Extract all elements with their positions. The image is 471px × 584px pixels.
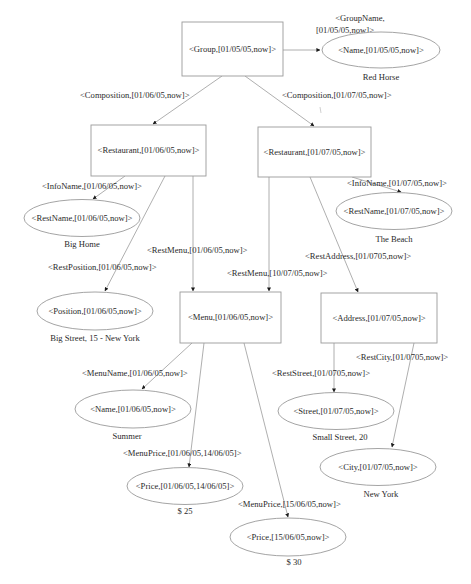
edge-label-composition-2: <Composition,[01/07/05,now]> bbox=[282, 90, 392, 100]
node-menu-name[interactable]: <Name,[01/06/05,now]> Summer bbox=[75, 390, 191, 441]
edge-menuname bbox=[142, 343, 192, 389]
edge-label-infoname-2: <InfoName,[01/07/05,now]> bbox=[347, 178, 447, 188]
node-position[interactable]: <Position,[01/06/05,now]> Big Street, 15… bbox=[37, 292, 153, 343]
edge-label-reststreet: <RestStreet,[01/0705,now]> bbox=[272, 368, 370, 378]
temporal-xml-graph: <GroupName, [01/05/05,now]> <Composition… bbox=[0, 0, 471, 584]
node-label-price-1: <Price,[01/06/05,14/06/05]> bbox=[136, 481, 235, 491]
node-label-restname-1: <RestName,[01/06/05,now]> bbox=[32, 213, 133, 223]
edge-label-infoname-1: <InfoName,[01/06/05,now]> bbox=[42, 181, 142, 191]
node-city[interactable]: <City,[01/07/05,now]> New York bbox=[320, 449, 436, 500]
edge-label-restmenu-1: <RestMenu,[01/06/05,now]> bbox=[147, 245, 248, 255]
stray-mark bbox=[320, 107, 321, 113]
edge-label-restcity: <RestCity,[01/0705,now]> bbox=[356, 352, 448, 362]
node-label-restaurant-1: <Restaurant,[01/06/05,now]> bbox=[98, 145, 200, 155]
node-value-price-2: $ 30 bbox=[286, 557, 301, 567]
node-address[interactable]: <Address,[01/07/05,now]> bbox=[321, 293, 437, 343]
node-value-group-name: Red Horse bbox=[363, 72, 400, 82]
edge-label-menuprice-2: <MenuPrice,[15/06/05,now]> bbox=[238, 499, 341, 509]
node-value-street: Small Street, 20 bbox=[312, 432, 367, 442]
node-restname-2[interactable]: <RestName,[01/07/05,now]> The Beach bbox=[336, 193, 452, 245]
node-restaurant-1[interactable]: <Restaurant,[01/06/05,now]> bbox=[91, 125, 206, 176]
node-restaurant-2[interactable]: <Restaurant,[01/07/05,now]> bbox=[258, 127, 371, 177]
edge-label-restmenu-2: <RestMenu,[10/07/05,now]> bbox=[227, 268, 328, 278]
node-value-restname-1: Big Home bbox=[64, 239, 100, 249]
edge-label-restposition: <RestPosition,[01/06/05,now]> bbox=[48, 262, 157, 272]
node-group-name[interactable]: <Name,[01/05/05,now]> Red Horse bbox=[322, 32, 440, 82]
node-label-restaurant-2: <Restaurant,[01/07/05,now]> bbox=[264, 147, 366, 157]
edge-labels: <GroupName, [01/05/05,now]> <Composition… bbox=[42, 13, 448, 509]
edge-label-restaddress: <RestAddress,[01/0705,now]> bbox=[305, 251, 411, 261]
node-label-position: <Position,[01/06/05,now]> bbox=[48, 306, 141, 316]
node-value-restname-2: The Beach bbox=[376, 234, 414, 244]
node-price-1[interactable]: <Price,[01/06/05,14/06/05]> $ 25 bbox=[127, 468, 243, 517]
node-restname-1[interactable]: <RestName,[01/06/05,now]> Big Home bbox=[24, 200, 140, 250]
node-group[interactable]: <Group,[01/05/05,now]> bbox=[182, 22, 283, 76]
node-label-street: <Street,[01/07/05,now]> bbox=[293, 406, 378, 416]
edge-label-groupname-line1: <GroupName, bbox=[335, 13, 384, 23]
node-label-city: <City,[01/07/05,now]> bbox=[338, 462, 417, 472]
node-label-group: <Group,[01/05/05,now]> bbox=[189, 44, 276, 54]
node-menu[interactable]: <Menu,[01/06/05,now]> bbox=[180, 292, 281, 343]
node-label-restname-2: <RestName,[01/07/05,now]> bbox=[344, 206, 445, 216]
node-price-2[interactable]: <Price,[15/06/05,now]> $ 30 bbox=[230, 518, 346, 567]
edge-composition-1 bbox=[153, 76, 222, 124]
node-street[interactable]: <Street,[01/07/05,now]> Small Street, 20 bbox=[278, 393, 394, 443]
node-label-menu-name: <Name,[01/06/05,now]> bbox=[90, 404, 176, 414]
node-value-position: Big Street, 15 - New York bbox=[50, 333, 140, 343]
node-label-price-2: <Price,[15/06/05,now]> bbox=[247, 532, 330, 542]
edge-composition-2 bbox=[245, 76, 314, 126]
node-label-group-name: <Name,[01/05/05,now]> bbox=[338, 45, 424, 55]
node-value-price-1: $ 25 bbox=[177, 506, 192, 516]
node-value-menu-name: Summer bbox=[112, 431, 141, 441]
edge-label-menuname: <MenuName,[01/06/05,now]> bbox=[82, 368, 188, 378]
edge-label-composition-1: <Composition,[01/06/05,now]> bbox=[80, 90, 190, 100]
edges bbox=[93, 50, 414, 517]
node-value-city: New York bbox=[364, 489, 400, 499]
nodes: <Group,[01/05/05,now]> <Name,[01/05/05,n… bbox=[24, 22, 452, 567]
edge-label-menuprice-1: <MenuPrice,[01/06/05,14/06/05]> bbox=[123, 448, 242, 458]
node-label-address: <Address,[01/07/05,now]> bbox=[332, 313, 425, 323]
node-label-menu: <Menu,[01/06/05,now]> bbox=[188, 312, 273, 322]
